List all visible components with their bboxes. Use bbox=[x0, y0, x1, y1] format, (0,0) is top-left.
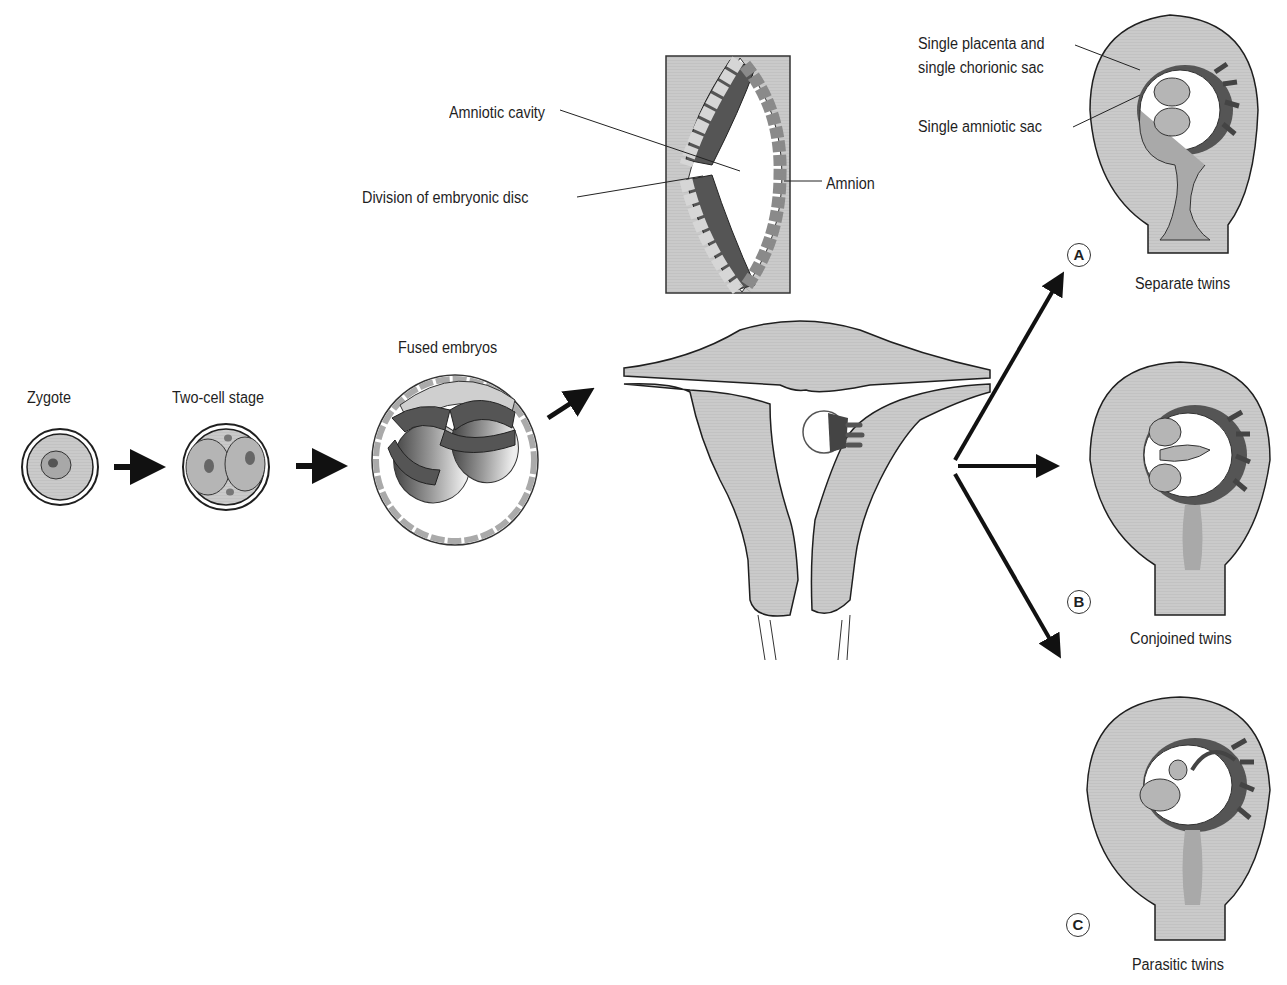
outcome-c-uterus bbox=[1087, 697, 1270, 940]
label-two-cell-stage: Two-cell stage bbox=[172, 389, 264, 407]
label-amnion: Amnion bbox=[826, 175, 875, 193]
diagram-canvas bbox=[0, 0, 1287, 985]
branch-arrows bbox=[955, 282, 1058, 648]
label-single-placenta: Single placenta and bbox=[918, 35, 1045, 53]
uterus-illustration bbox=[624, 321, 990, 660]
badge-c: C bbox=[1066, 913, 1090, 937]
label-fused-embryos: Fused embryos bbox=[398, 339, 497, 357]
badge-a: A bbox=[1067, 243, 1091, 267]
label-separate-twins: Separate twins bbox=[1135, 275, 1230, 293]
fused-embryos-illustration bbox=[372, 375, 538, 545]
badge-b: B bbox=[1067, 590, 1091, 614]
label-division-embryonic-disc: Division of embryonic disc bbox=[362, 189, 528, 207]
zygote-illustration bbox=[22, 429, 98, 505]
label-parasitic-twins: Parasitic twins bbox=[1132, 956, 1224, 974]
two-cell-illustration bbox=[183, 424, 269, 510]
embryonic-disc-inset bbox=[560, 56, 822, 293]
label-conjoined-twins: Conjoined twins bbox=[1130, 630, 1232, 648]
arrow-icon bbox=[548, 396, 582, 418]
outcome-a-uterus bbox=[1073, 15, 1258, 253]
label-zygote: Zygote bbox=[27, 389, 71, 407]
outcome-b-uterus bbox=[1090, 362, 1270, 615]
label-single-amniotic-sac: Single amniotic sac bbox=[918, 118, 1042, 136]
label-single-chorionic-sac: single chorionic sac bbox=[918, 59, 1044, 77]
label-amniotic-cavity: Amniotic cavity bbox=[449, 104, 545, 122]
